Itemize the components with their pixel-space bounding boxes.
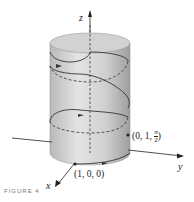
point-label-1-0-0: (1, 0, 0) xyxy=(74,170,104,180)
x-axis-label: x xyxy=(46,181,50,191)
x-axis xyxy=(58,164,74,184)
y-axis-label: y xyxy=(178,162,182,172)
point-label-0-1-pi2: (0, 1, π2) xyxy=(132,129,161,144)
helix-figure: z y x (1, 0, 0) (0, 1, π2) FIGURE 4 xyxy=(0,0,194,202)
point-1-0-0 xyxy=(73,162,76,165)
y-axis xyxy=(128,150,182,156)
y-axis-arrow-icon xyxy=(177,154,184,159)
point-0-1-pi2 xyxy=(126,133,129,136)
z-axis-arrow-icon xyxy=(88,10,92,17)
figure-caption: FIGURE 4 xyxy=(4,188,40,194)
z-axis-label: z xyxy=(79,13,83,23)
